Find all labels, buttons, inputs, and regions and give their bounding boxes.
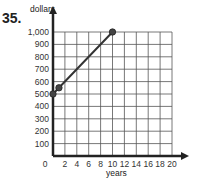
y-axis-arrow-icon: [49, 6, 57, 14]
y-tick-label: 700: [35, 64, 49, 74]
y-tick-label: 300: [35, 114, 49, 124]
data-line: [53, 32, 113, 94]
x-tick-label: 18: [155, 159, 165, 169]
x-tick-label: 4: [74, 159, 79, 169]
x-axis-arrow-icon: [181, 152, 189, 160]
x-tick-label: 16: [143, 159, 153, 169]
y-tick-label: 600: [35, 77, 49, 87]
y-tick-label: 800: [35, 52, 49, 62]
y-tick-label: 1,000: [28, 27, 50, 37]
line-chart: 1002003004005006007008009001,00002468101…: [0, 0, 197, 188]
data-point: [50, 91, 56, 97]
x-tick-label: 2: [63, 159, 68, 169]
data-point: [56, 85, 62, 91]
y-tick-label: 500: [35, 89, 49, 99]
x-tick-label: 6: [86, 159, 91, 169]
y-tick-label: 200: [35, 126, 49, 136]
data-point: [109, 29, 115, 35]
x-tick-label: 14: [132, 159, 142, 169]
x-tick-label: 20: [167, 159, 177, 169]
x-tick-label: 10: [108, 159, 118, 169]
x-tick-label: 12: [120, 159, 130, 169]
x-tick-label: 8: [98, 159, 103, 169]
y-tick-label: 900: [35, 39, 49, 49]
y-tick-label: 400: [35, 101, 49, 111]
x-tick-label: 0: [43, 159, 48, 169]
y-tick-label: 100: [35, 139, 49, 149]
